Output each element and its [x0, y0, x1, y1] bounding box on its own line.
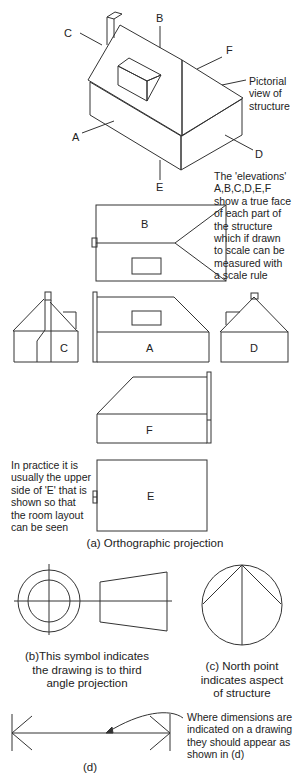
label-b: B	[156, 12, 163, 24]
elevation-a-dormer	[132, 311, 161, 325]
elevation-c-label: C	[60, 342, 68, 354]
north-point-right-arm	[242, 565, 281, 604]
north-point-left-arm	[203, 565, 242, 604]
label-e: E	[156, 181, 163, 193]
dimension-line	[12, 713, 183, 751]
elevation-d: D	[220, 293, 288, 362]
elevation-b: B	[92, 205, 226, 281]
pictorial-dormer-front	[118, 66, 147, 101]
pictorial-roof-right	[182, 60, 243, 136]
label-c: C	[64, 27, 72, 39]
elevation-f-roof	[97, 377, 207, 414]
north-point-caption: (c) North point indicates aspect of stru…	[190, 660, 294, 701]
dimension-leader-curve	[108, 713, 183, 732]
elevation-a-roof	[97, 297, 209, 332]
label-f: F	[226, 44, 233, 56]
arrow-f	[197, 57, 222, 69]
pictorial-dormer-side	[147, 75, 161, 101]
label-a: A	[72, 131, 80, 143]
elevation-d-label: D	[250, 342, 258, 354]
elevation-c-roof-left	[13, 299, 44, 331]
elevation-f-chimney	[207, 372, 211, 443]
arrow-c	[80, 33, 102, 45]
arrow-pictorial	[222, 80, 246, 85]
elevation-a: A	[93, 292, 209, 362]
north-point	[202, 565, 282, 645]
elevation-f-label: F	[146, 424, 153, 436]
pictorial-house: C B F A D E	[64, 12, 263, 193]
pictorial-wall-d	[181, 99, 242, 170]
elevation-c-chimney-top	[45, 292, 51, 300]
elevation-c-walls	[14, 331, 78, 362]
label-d: D	[255, 148, 263, 160]
third-angle-caption: (b)This symbol indicates the drawing is …	[12, 650, 162, 691]
third-angle-symbol	[14, 564, 172, 635]
dimension-leader-arrowhead	[106, 727, 113, 733]
pictorial-chimney	[107, 12, 122, 19]
elevation-a-label: A	[146, 342, 154, 354]
dimension-caption: (d)	[70, 761, 110, 775]
elevation-b-label: B	[141, 218, 148, 230]
e-elevation-note: In practice it is usually the upper side…	[11, 459, 91, 533]
pictorial-roof-front	[88, 25, 182, 136]
elevation-e-label: E	[147, 490, 154, 502]
elevation-c-roof-right	[50, 302, 77, 331]
elevation-d-roof	[220, 297, 288, 332]
elevation-c-dormer	[63, 312, 76, 329]
elevations-note: The 'elevations' A,B,C,D,E,F show a true…	[214, 170, 291, 282]
dimension-note: Where dimensions are indicated on a draw…	[187, 711, 292, 761]
elevation-f: F	[97, 372, 211, 443]
elevation-e: E	[93, 460, 207, 531]
pictorial-note: Pictorial view of structure	[249, 75, 290, 112]
elevation-b-dormer	[132, 258, 161, 274]
orthographic-caption: (a) Orthographic projection	[70, 537, 240, 551]
elevation-a-chimney	[93, 292, 97, 362]
elevation-c: C	[13, 292, 78, 362]
